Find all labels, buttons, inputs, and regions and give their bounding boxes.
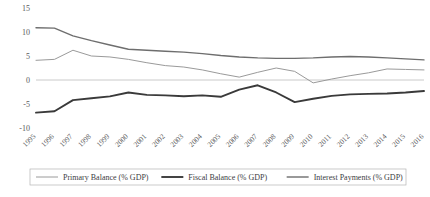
y-tick-label: 0 <box>26 76 30 85</box>
x-tick-label: 2008 <box>261 132 278 149</box>
chart-legend: Primary Balance (% GDP)Fiscal Balance (%… <box>30 169 406 185</box>
x-tick-label: 2003 <box>168 132 185 149</box>
series-lines <box>36 28 424 113</box>
legend-label: Interest Payments (% GDP) <box>314 173 403 182</box>
series-line-interest <box>36 28 424 60</box>
x-tick-label: 2005 <box>205 132 222 149</box>
y-tick-label: 10 <box>22 28 30 37</box>
x-tick-label: 2007 <box>242 132 259 149</box>
x-tick-label: 1995 <box>21 132 38 149</box>
legend-label: Primary Balance (% GDP) <box>63 173 149 182</box>
line-chart: 151050-5-10 1995199619971998199920002001… <box>0 0 430 197</box>
x-tick-label: 2014 <box>372 132 389 149</box>
y-tick-label: 5 <box>26 52 30 61</box>
y-axis-tick-labels: 151050-5-10 <box>19 4 30 133</box>
chart-container: 151050-5-10 1995199619971998199920002001… <box>0 0 430 197</box>
x-axis-tick-labels: 1995199619971998199920002001200220032004… <box>21 132 426 149</box>
legend-label: Fiscal Balance (% GDP) <box>188 173 267 182</box>
y-tick-label: -10 <box>19 124 30 133</box>
series-line-primary <box>36 50 424 83</box>
x-tick-label: 2015 <box>390 132 407 149</box>
x-tick-label: 2012 <box>335 132 352 149</box>
x-tick-label: 1999 <box>95 132 112 149</box>
y-tick-label: -5 <box>23 100 30 109</box>
x-tick-label: 2013 <box>353 132 370 149</box>
y-tick-label: 15 <box>22 4 30 13</box>
x-tick-label: 2010 <box>298 132 315 149</box>
series-line-fiscal <box>36 85 424 112</box>
x-tick-label: 2000 <box>113 132 130 149</box>
x-tick-label: 1996 <box>39 132 56 149</box>
x-tick-label: 2009 <box>279 132 296 149</box>
x-tick-label: 2016 <box>409 132 426 149</box>
x-tick-label: 1997 <box>58 132 75 149</box>
x-tick-label: 2006 <box>224 132 241 149</box>
x-tick-label: 2002 <box>150 132 167 149</box>
x-tick-label: 2001 <box>131 132 148 149</box>
x-tick-label: 1998 <box>76 132 93 149</box>
x-tick-label: 2011 <box>316 132 333 149</box>
x-tick-label: 2004 <box>187 132 204 149</box>
